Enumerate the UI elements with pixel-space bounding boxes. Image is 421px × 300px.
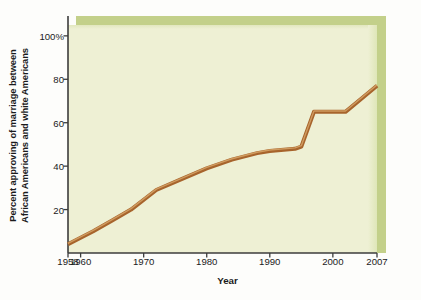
x-tick-label: 1960	[70, 256, 91, 267]
panel-right-bevel	[377, 16, 386, 253]
y-axis-title-line-2: African Americans and white Americans	[18, 48, 30, 223]
x-tick-label: 1990	[259, 256, 280, 267]
x-tick-label: 2000	[322, 256, 343, 267]
y-axis-tick-labels: 20406080100%	[30, 0, 64, 300]
y-tick-label: 40	[30, 161, 64, 172]
x-tick-label: 1980	[196, 256, 217, 267]
y-axis-title-line-1: Percent approving of marriage between	[7, 48, 19, 223]
y-tick-label: 20	[30, 204, 64, 215]
y-tick-label: 60	[30, 117, 64, 128]
panel-face	[68, 25, 377, 253]
x-axis-title: Year	[0, 275, 421, 286]
x-axis-title-text: Year	[217, 275, 238, 286]
panel-top-shading	[68, 25, 377, 29]
panel-right-shading	[368, 25, 377, 253]
x-tick-label: 2007	[366, 256, 387, 267]
panel-top-bevel	[76, 16, 386, 25]
plot-panel	[68, 16, 386, 253]
x-axis-tick-labels: 1958196019701980199020002007	[0, 256, 421, 272]
x-tick-label: 1970	[133, 256, 154, 267]
y-tick-label: 80	[30, 74, 64, 85]
chart-figure: Percent approving of marriage between Af…	[0, 0, 421, 300]
y-tick-label: 100%	[30, 30, 64, 41]
